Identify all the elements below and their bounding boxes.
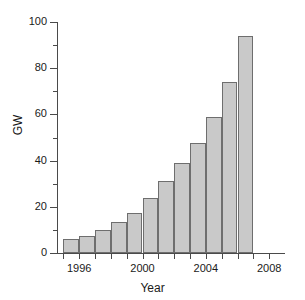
y-tick-major [50,207,57,208]
x-tick-label: 2008 [257,263,281,274]
x-tick-label: 2004 [194,263,218,274]
x-tick [190,253,191,259]
bar [190,143,206,253]
x-axis-title: Year [0,281,305,295]
bar [79,236,95,253]
x-tick [158,253,159,259]
y-tick-major [50,161,57,162]
bar-chart-figure: GW Year 020406080100 1996200020042008 [0,0,305,300]
x-tick [253,253,254,259]
x-tick [269,253,270,259]
y-tick-label: 80 [35,62,47,73]
x-tick-label: 1996 [67,263,91,274]
bar [158,181,174,253]
y-tick-major [50,114,57,115]
bar [143,198,159,253]
bar [206,117,222,253]
y-tick-label: 100 [29,16,47,27]
x-tick [222,253,223,259]
x-tick [111,253,112,259]
x-tick [127,253,128,259]
bar [222,82,238,253]
x-tick [238,253,239,259]
y-tick-label: 0 [41,247,47,258]
bar [63,239,79,253]
x-tick [79,253,80,259]
x-tick [174,253,175,259]
y-tick-label: 40 [35,155,47,166]
x-tick [63,253,64,259]
y-tick-major [50,253,57,254]
y-tick-label: 20 [35,201,47,212]
bar [127,213,143,253]
bar [238,36,254,253]
y-tick-label: 60 [35,108,47,119]
x-axis-line [57,253,285,254]
bar [174,163,190,253]
bar [95,230,111,253]
plot-area [57,22,285,253]
x-tick [143,253,144,259]
y-tick-major [50,68,57,69]
y-tick-major [50,22,57,23]
x-tick [206,253,207,259]
y-axis-title: GW [11,115,25,136]
x-tick-label: 2000 [130,263,154,274]
bar [111,222,127,253]
x-tick [95,253,96,259]
